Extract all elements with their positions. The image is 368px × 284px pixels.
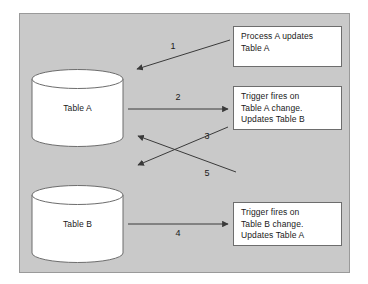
box-line: Table B change. (241, 219, 341, 231)
arrow-1-line (137, 40, 230, 69)
arrow-2-number: 2 (171, 92, 185, 102)
box-line: Updates Table B (241, 114, 341, 126)
box-line: Trigger fires on (241, 207, 341, 219)
diagram-root: Table A Table B Process A updates Table … (0, 0, 368, 284)
box-line: Table A change. (241, 103, 341, 115)
box-line: Updates Table A (241, 230, 341, 242)
arrow-3-number: 3 (200, 131, 214, 141)
table-b-label: Table B (32, 219, 123, 229)
box-line: Process A updates (241, 31, 341, 43)
box-trigger-table-b: Trigger fires on Table B change. Updates… (233, 202, 342, 246)
box-line: Trigger fires on (241, 91, 341, 103)
arrow-5-number: 5 (200, 168, 214, 178)
arrow-4-number: 4 (171, 228, 185, 238)
arrow-5-line (138, 136, 236, 172)
table-a-label: Table A (32, 103, 123, 113)
arrow-3-line (138, 127, 228, 165)
box-line: Table A (241, 43, 341, 55)
box-process-a-updates-table-a: Process A updates Table A (233, 26, 342, 67)
arrow-1-number: 1 (166, 41, 180, 51)
box-trigger-table-a: Trigger fires on Table A change. Updates… (233, 86, 342, 130)
